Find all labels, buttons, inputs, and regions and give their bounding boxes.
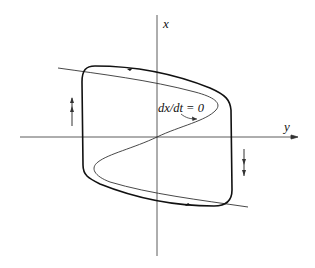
- right-flow-arrow: [242, 149, 246, 176]
- arrow-up-icon: [70, 106, 74, 112]
- vertical-axis-label: x: [162, 16, 169, 31]
- axes: [20, 15, 298, 256]
- phase-plane-diagram: x y dx/dt = 0: [0, 0, 315, 268]
- cubic-nullcline: [58, 68, 248, 207]
- nullcline-pointer-arrowhead-icon: [192, 117, 197, 122]
- horizontal-axis-arrowhead-icon: [291, 135, 298, 139]
- arrow-up-icon: [70, 97, 74, 103]
- nullcline-label: dx/dt = 0: [158, 101, 205, 115]
- horizontal-axis-label: y: [282, 119, 290, 134]
- left-flow-arrow: [70, 97, 74, 126]
- arrow-down-icon: [242, 170, 246, 176]
- arrow-down-icon: [242, 159, 246, 165]
